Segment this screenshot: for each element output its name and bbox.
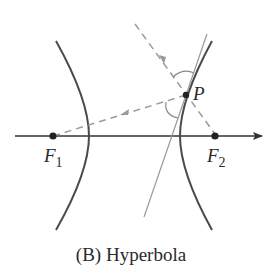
tangent-line [144, 34, 207, 217]
label-f1: F1 [43, 145, 63, 170]
angle-arc-upper [173, 71, 194, 77]
hyperbola-diagram: P F1 F2 (B) Hyperbola [0, 0, 276, 273]
reflected-ray [53, 95, 186, 136]
figure-caption: (B) Hyperbola [0, 244, 262, 266]
incoming-ray-arrow-icon [159, 55, 166, 64]
reflected-ray-arrow-icon [120, 109, 129, 115]
point-p [183, 92, 189, 98]
focus-2-point [211, 132, 218, 139]
label-f2: F2 [206, 145, 226, 170]
angle-arc-lower [166, 102, 178, 118]
label-p: P [192, 83, 205, 104]
focus-1-point [49, 132, 56, 139]
